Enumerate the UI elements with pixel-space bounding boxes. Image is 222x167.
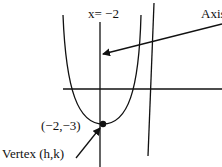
vertex-coordinates-label: (−2,−3) <box>41 118 81 133</box>
axis-callout-arrow <box>103 24 222 54</box>
parabola-diagram: x= −2 Axis of symmetry (−2,−3) Vertex (h… <box>0 0 222 167</box>
vertex-callout-label: Vertex (h,k) <box>2 146 64 161</box>
y-axis <box>148 3 154 156</box>
axis-equation-label: x= −2 <box>88 6 119 21</box>
parabola-curve <box>63 15 141 124</box>
vertex-point <box>100 121 106 127</box>
axis-callout-label: Axis of symmetry <box>201 6 222 21</box>
